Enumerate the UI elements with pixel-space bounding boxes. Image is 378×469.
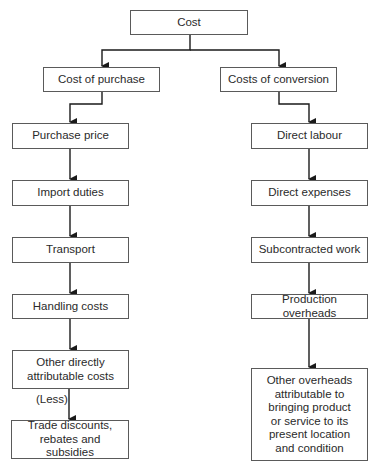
node-transport: Transport (12, 237, 129, 263)
node-trade-discounts: Trade discounts, rebates and subsidies (11, 420, 129, 459)
node-label: Cost of purchase (58, 73, 145, 87)
node-purchase-price: Purchase price (12, 123, 129, 149)
node-direct-expenses: Direct expenses (251, 180, 368, 206)
node-direct-labour: Direct labour (251, 123, 368, 149)
node-label: Transport (46, 243, 95, 257)
node-label: Direct expenses (268, 186, 350, 200)
node-label: Direct labour (277, 129, 342, 143)
node-label: Subcontracted work (259, 243, 361, 257)
node-production-overheads: Production overheads (251, 294, 368, 319)
node-label: Import duties (37, 186, 103, 200)
connector-note-less: (Less) (36, 393, 68, 405)
node-label: Trade discounts, rebates and subsidies (18, 419, 122, 460)
node-cost-label: Cost (177, 16, 201, 30)
node-label: Handling costs (33, 300, 108, 314)
node-costs-of-conversion: Costs of conversion (220, 67, 337, 92)
node-other-directly-attributable-costs: Other directly attributable costs (12, 350, 129, 389)
node-cost-of-purchase: Cost of purchase (43, 67, 160, 92)
node-label: Costs of conversion (228, 73, 329, 87)
node-cost: Cost (130, 10, 248, 35)
node-label: Purchase price (32, 129, 109, 143)
node-label: Other overheads attributable to bringing… (264, 374, 355, 455)
node-label: Production overheads (254, 293, 365, 320)
node-import-duties: Import duties (12, 180, 129, 206)
node-other-overheads: Other overheads attributable to bringing… (251, 368, 368, 461)
node-label: Other directly attributable costs (27, 356, 114, 383)
node-subcontracted-work: Subcontracted work (251, 237, 368, 263)
node-handling-costs: Handling costs (12, 294, 129, 319)
